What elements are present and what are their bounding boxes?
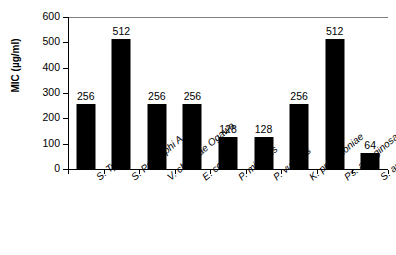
x-axis-tick-mark: [246, 170, 247, 174]
x-axis-category-label: E. coli: [200, 174, 207, 182]
x-axis-category-labels: S. TyphiS. Paratyphi AV. cholerae OgawaE…: [68, 174, 388, 254]
x-axis-tick-mark: [104, 170, 105, 174]
x-axis-category-label: S. aureus: [378, 174, 385, 182]
x-axis-tick-mark: [139, 170, 140, 174]
y-axis-tick-label: 200: [26, 112, 60, 122]
bar-value-label: 256: [148, 91, 166, 102]
bar-value-label: 128: [255, 124, 273, 135]
bar-slot: 128: [246, 17, 282, 169]
bar: [76, 104, 95, 169]
bar-value-label: 256: [184, 91, 202, 102]
bar-slot: 512: [104, 17, 140, 169]
x-axis-category-label: S. Paratyphi A: [129, 174, 136, 182]
x-axis-tick-mark: [388, 170, 389, 174]
y-axis-title: MIC (µg/ml): [10, 16, 21, 116]
x-axis-tick-mark: [210, 170, 211, 174]
y-axis-tick-label: 400: [26, 62, 60, 72]
bar-slot: 256: [68, 17, 104, 169]
bar-chart-figure: MIC (µg/ml) 0100200300400500600 25651225…: [0, 0, 396, 255]
x-axis-category-label: S. Typhi: [94, 174, 101, 182]
x-axis-tick-mark: [317, 170, 318, 174]
x-axis-tick-mark: [352, 170, 353, 174]
y-axis-tick-mark: [63, 42, 68, 43]
y-axis-tick-mark: [63, 17, 68, 18]
x-axis-category-label: V. cholerae Ogawa: [165, 174, 172, 182]
bar-value-label: 512: [113, 26, 131, 37]
x-axis-tick-mark: [281, 170, 282, 174]
bar-slot: 256: [281, 17, 317, 169]
x-axis-category-label: Ps. aeruginosa: [342, 174, 349, 182]
x-axis-tick-mark: [175, 170, 176, 174]
y-axis-tick-mark: [63, 93, 68, 94]
y-axis-tick-label: 0: [26, 163, 60, 173]
y-axis-tick-label: 100: [26, 138, 60, 148]
x-axis-tick-mark: [68, 170, 69, 174]
y-axis-tick-label: 300: [26, 87, 60, 97]
bar-value-label: 256: [290, 91, 308, 102]
y-axis-tick-mark: [63, 144, 68, 145]
y-axis-tick-mark: [63, 68, 68, 69]
y-axis-tick-label: 500: [26, 36, 60, 46]
x-axis-category-label: P. vulgaris: [271, 174, 278, 182]
bar: [112, 39, 131, 169]
bar-slot: 128: [210, 17, 246, 169]
bar-value-label: 256: [77, 91, 95, 102]
y-axis-tick-mark: [63, 118, 68, 119]
y-axis-tick-label: 600: [26, 11, 60, 21]
x-axis-category-label: K. pneumoniae: [307, 174, 314, 182]
bar-value-label: 512: [326, 26, 344, 37]
y-axis-tick-labels: 0100200300400500600: [24, 0, 60, 255]
x-axis-category-label: P. mirabilis: [236, 174, 243, 182]
